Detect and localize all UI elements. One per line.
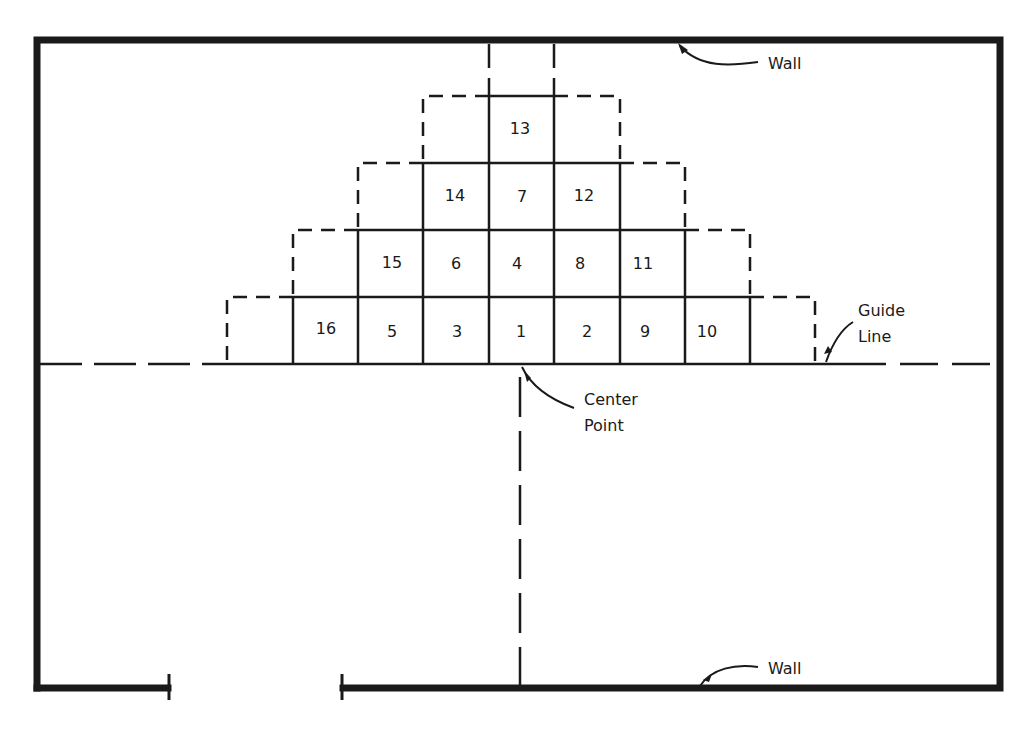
wall-top-label: Wall: [768, 54, 802, 73]
tile-7: 7: [517, 187, 527, 206]
tile-10: 10: [697, 322, 717, 341]
callout-labels: Wall Guide Line Center Point Wall: [584, 54, 905, 678]
tile-16: 16: [316, 319, 336, 338]
tile-6: 6: [451, 254, 461, 273]
center-column-extension: [489, 44, 554, 96]
tile-layout-diagram: 1 2 3 4 5 6 7 8 9 10 11 12 13 14 15 16 W…: [0, 0, 1034, 732]
tile-5: 5: [387, 322, 397, 341]
tile-8: 8: [575, 254, 585, 273]
tile-11: 11: [633, 254, 653, 273]
wall-bottom-label: Wall: [768, 659, 802, 678]
tile-14: 14: [445, 186, 465, 205]
center-point-label-1: Center: [584, 390, 638, 409]
tile-3: 3: [452, 322, 462, 341]
tile-4: 4: [512, 254, 522, 273]
doorway: [169, 674, 342, 700]
wall-top-arrow: [680, 46, 758, 65]
wall-bottom-arrow: [700, 666, 758, 686]
guide-line-arrow: [826, 322, 853, 362]
tile-12: 12: [574, 186, 594, 205]
guide-line-label-2: Line: [858, 327, 891, 346]
tile-2: 2: [582, 322, 592, 341]
guide-line-label-1: Guide: [858, 301, 905, 320]
center-point-label-2: Point: [584, 416, 624, 435]
center-point-arrow: [522, 367, 574, 408]
tile-9: 9: [640, 322, 650, 341]
tile-15: 15: [382, 253, 402, 272]
tile-13: 13: [510, 119, 530, 138]
tile-1: 1: [516, 322, 526, 341]
